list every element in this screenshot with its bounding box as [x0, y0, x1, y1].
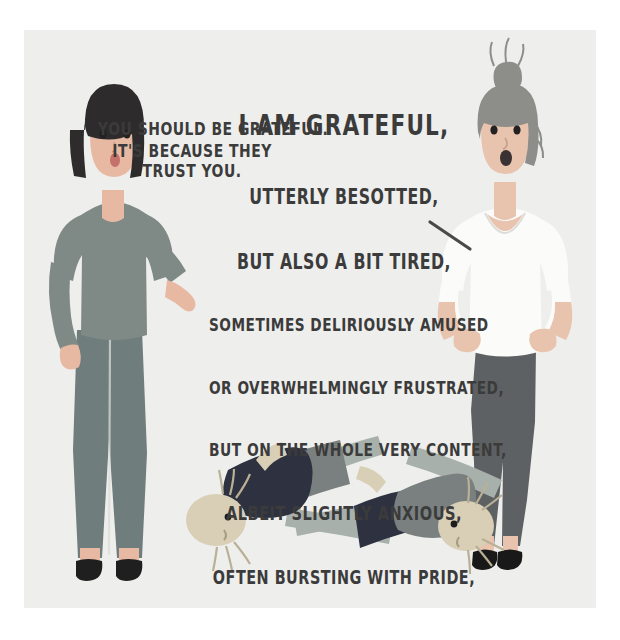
- right-woman-mouth: [500, 150, 512, 166]
- right-caption-line: UTTERLY BESOTTED,: [209, 185, 479, 208]
- left-woman-shoe-right: [116, 559, 142, 581]
- illustration-panel: YOU SHOULD BE GRATEFUL. IT'S BECAUSE THE…: [24, 30, 596, 608]
- right-caption-line: OR OVERWHELMINGLY FRUSTRATED,: [209, 379, 479, 399]
- right-caption-line: I AM GRATEFUL,: [209, 110, 479, 142]
- left-woman-shoe-left: [76, 559, 102, 581]
- right-woman-shoe-right: [497, 550, 522, 570]
- right-woman-eye-left: [490, 125, 497, 134]
- left-woman-top: [54, 202, 173, 340]
- left-woman-arm-down: [49, 262, 79, 352]
- right-speaker-caption: I AM GRATEFUL, UTTERLY BESOTTED, BUT ALS…: [209, 68, 479, 608]
- left-woman-trouser-crease: [109, 332, 110, 555]
- right-caption-line: BUT ON THE WHOLE VERY CONTENT,: [209, 441, 479, 461]
- left-woman-hand-down: [60, 344, 81, 369]
- right-woman-neck: [494, 182, 516, 220]
- right-woman-hand-right: [529, 329, 556, 353]
- right-caption-line: ALBEIT SLIGHTLY ANXIOUS,: [209, 503, 479, 524]
- left-woman-hand-gesture: [165, 280, 196, 312]
- comic-frame: YOU SHOULD BE GRATEFUL. IT'S BECAUSE THE…: [0, 0, 620, 640]
- right-caption-line: BUT ALSO A BIT TIRED,: [209, 251, 479, 274]
- right-caption-line: OFTEN BURSTING WITH PRIDE,: [209, 567, 479, 588]
- right-woman-bun: [494, 62, 523, 92]
- right-woman-eye-right: [513, 125, 520, 134]
- right-caption-line: SOMETIMES DELIRIOUSLY AMUSED: [209, 316, 479, 336]
